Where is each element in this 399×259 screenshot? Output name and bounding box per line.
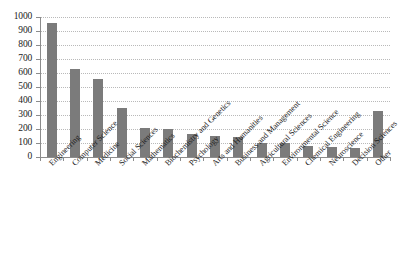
y-tick-label: 200	[18, 124, 32, 134]
y-tick-label: 900	[18, 26, 32, 36]
y-tick-label: 0	[27, 152, 32, 162]
y-tick-label: 400	[18, 96, 32, 106]
bar	[47, 23, 57, 157]
x-tick-mark	[40, 157, 41, 161]
y-tick-label: 300	[18, 110, 32, 120]
y-tick-label: 500	[18, 82, 32, 92]
y-tick-label: 600	[18, 68, 32, 78]
y-tick-label: 100	[18, 138, 32, 148]
y-tick-label: 1000	[14, 12, 32, 22]
y-tick-label: 700	[18, 54, 32, 64]
y-tick-label: 800	[18, 40, 32, 50]
